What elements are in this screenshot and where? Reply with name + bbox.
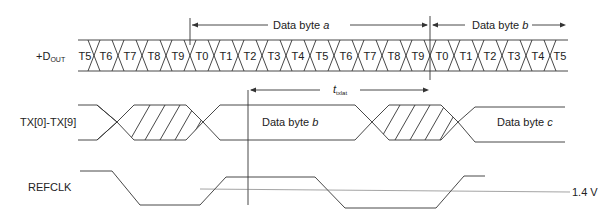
- dout-bit-label: T8: [148, 50, 161, 62]
- hatch-2: [380, 105, 460, 140]
- dout-bit-label: T5: [79, 50, 92, 62]
- tx-bus-initial: [78, 105, 117, 140]
- dout-bit-label: T5: [554, 50, 567, 62]
- tx-transition-hatched-2: [372, 105, 458, 140]
- hatch-1: [130, 105, 210, 140]
- arrow-right-icon: [560, 23, 566, 28]
- arrow-left-icon: [432, 23, 438, 28]
- dout-bit-label: T1: [220, 50, 233, 62]
- signal-label-dout: +DOUT: [36, 50, 66, 63]
- label-data-byte-b-top: Data byte b: [472, 19, 528, 31]
- arrow-right-icon: [422, 23, 428, 28]
- tx-transition-hatched-1: [117, 105, 203, 140]
- dout-bit-label: T9: [412, 50, 425, 62]
- arrow-left-icon: [250, 88, 256, 93]
- arrow-right-icon: [423, 88, 429, 93]
- dout-bit-label: T7: [364, 50, 377, 62]
- signal-label-tx: TX[0]-TX[9]: [20, 116, 76, 128]
- dout-bit-label: T5: [316, 50, 329, 62]
- label-threshold: 1.4 V: [572, 186, 598, 198]
- arrow-left-icon: [192, 23, 198, 28]
- dout-bit-label: T8: [388, 50, 401, 62]
- dout-bit-label: T2: [484, 50, 497, 62]
- dout-bit-labels: T5T6T7T8T9T0T1T2T3T4T5T6T7T8T9T0T1T2T3T4…: [79, 50, 567, 62]
- dout-bit-label: T6: [100, 50, 113, 62]
- dout-bit-label: T2: [244, 50, 257, 62]
- dout-bit-label: T3: [268, 50, 281, 62]
- dout-bit-label: T3: [508, 50, 521, 62]
- dout-bit-label: T4: [532, 50, 545, 62]
- dout-bit-label: T1: [460, 50, 473, 62]
- label-tx-byte-c: Data byte c: [497, 116, 553, 128]
- dout-bit-label: T4: [292, 50, 305, 62]
- signal-label-refclk: REFCLK: [28, 181, 72, 193]
- dout-bit-label: T0: [196, 50, 209, 62]
- label-tx-byte-b: Data byte b: [262, 116, 318, 128]
- dout-bit-label: T0: [436, 50, 449, 62]
- dout-bit-label: T7: [124, 50, 137, 62]
- timing-diagram: +DOUT TX[0]-TX[9] REFCLK Data byte a Dat…: [0, 0, 607, 219]
- label-data-byte-a: Data byte a: [273, 19, 329, 31]
- label-txlat: ttxlat: [333, 83, 347, 96]
- threshold-line: [200, 189, 570, 192]
- dout-bit-label: T6: [340, 50, 353, 62]
- dout-bit-label: T9: [172, 50, 185, 62]
